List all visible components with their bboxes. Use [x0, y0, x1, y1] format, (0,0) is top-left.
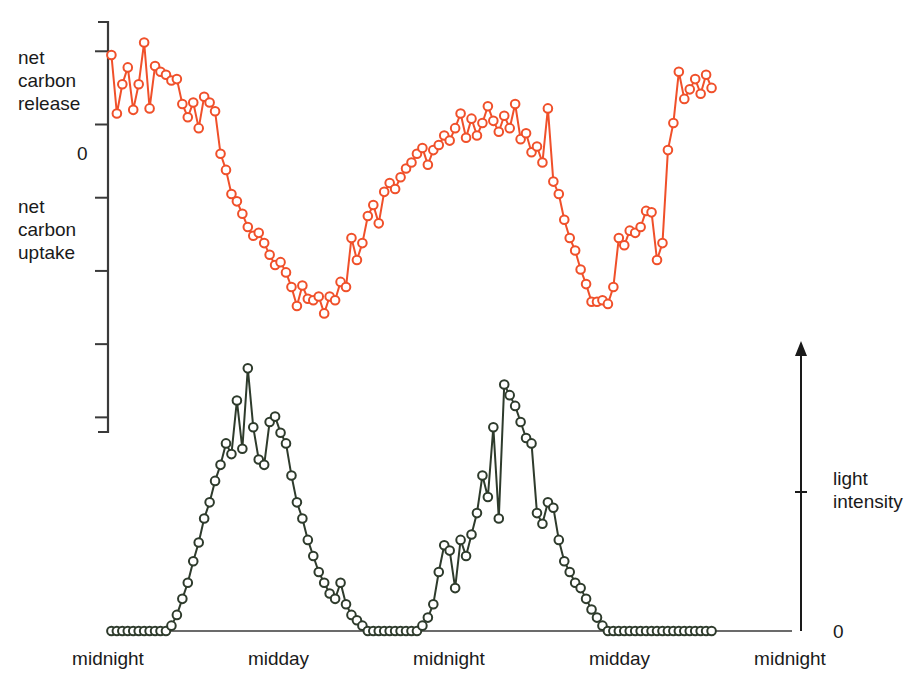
x-tick-label: midday	[589, 648, 650, 670]
series-net-carbon-exchange	[107, 38, 716, 317]
axis-label-net-carbon-uptake: net carbon uptake	[18, 195, 76, 264]
axis-label-net-carbon-release: net carbon release	[18, 46, 80, 115]
right-axis-light-intensity	[795, 341, 807, 631]
chart-svg	[0, 0, 908, 690]
left-axis	[95, 22, 108, 432]
axis-label-zero-right: 0	[833, 620, 844, 643]
x-tick-label: midday	[248, 648, 309, 670]
figure-panel: net carbon release net carbon uptake 0 l…	[0, 0, 908, 690]
x-tick-label: midnight	[72, 648, 144, 670]
series-light-intensity	[107, 364, 716, 635]
axis-label-light-intensity: light intensity	[833, 467, 903, 513]
x-tick-label: midnight	[754, 648, 826, 670]
x-tick-label: midnight	[413, 648, 485, 670]
axis-label-zero-left: 0	[77, 142, 88, 165]
